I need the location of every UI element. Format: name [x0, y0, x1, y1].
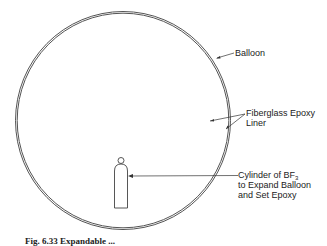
figure-caption: Fig. 6.33 Expandable ... [25, 236, 115, 246]
cylinder-label-line3: and Set Epoxy [238, 190, 311, 200]
cylinder-leader-line [130, 176, 238, 177]
cylinder-label-line1: Cylinder of BF3 [238, 170, 311, 180]
balloon-arrowhead [216, 56, 221, 59]
liner-leader-line-1 [210, 114, 245, 121]
cylinder-valve-cap [118, 158, 124, 164]
liner-label-line2: Liner [246, 118, 315, 128]
cylinder-label: Cylinder of BF3 to Expand Balloon and Se… [238, 170, 311, 200]
balloon-outline [16, 12, 231, 230]
liner-label-line1: Fiberglass Epoxy [246, 108, 315, 118]
cylinder-label-line2: to Expand Balloon [238, 180, 311, 190]
balloon-label: Balloon [235, 48, 265, 58]
cylinder-body [115, 164, 128, 208]
liner-label: Fiberglass Epoxy Liner [246, 108, 315, 128]
fiberglass-liner-outline [17, 13, 229, 228]
cylinder-arrowhead [128, 174, 133, 178]
